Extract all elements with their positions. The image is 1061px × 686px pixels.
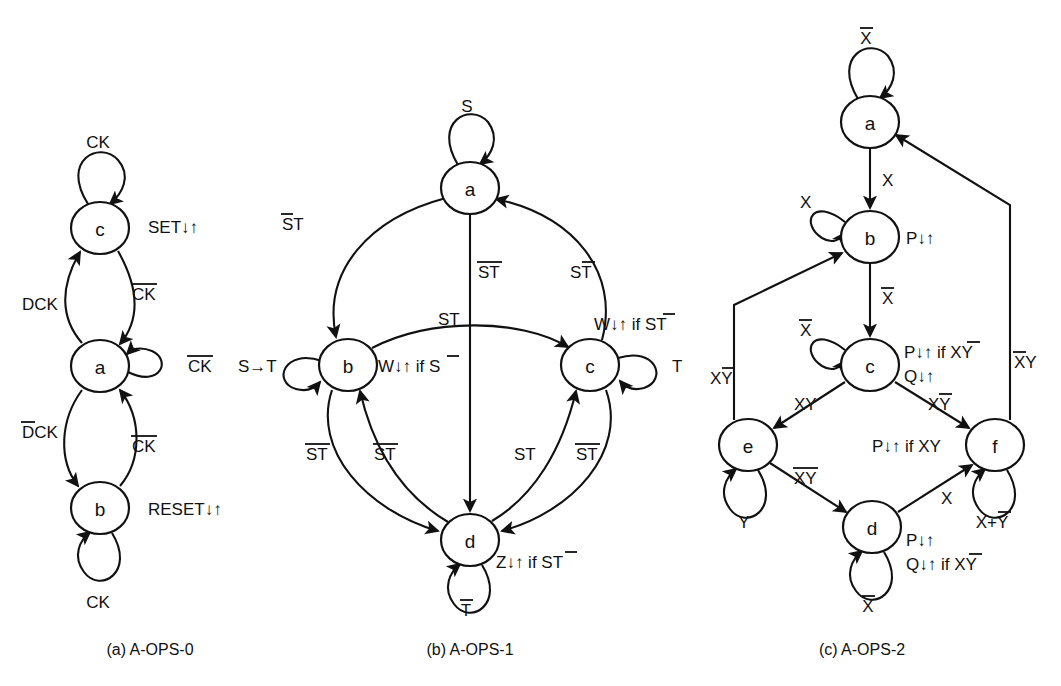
output-label-c-c2: Q↓↑ <box>904 367 934 386</box>
output-label-b-reset: RESET↓↑ <box>148 500 222 519</box>
label-c-f-to-a: XY <box>1013 352 1037 372</box>
label-b-d-to-b-text: ST <box>374 445 396 464</box>
state-label-b: b <box>95 499 106 520</box>
state-node-b-b[interactable]: b <box>319 339 377 391</box>
self-loop-c-ck <box>78 152 124 204</box>
state-label-c-c: c <box>865 356 875 377</box>
label-self-loop-c: CK <box>86 133 110 152</box>
output-label-b-c: W↓↑ if ST <box>594 314 675 334</box>
label-c-e-to-d: XY <box>793 468 818 488</box>
label-c-self-loop-b: X <box>800 193 811 212</box>
label-b-c-to-d-text: ST <box>576 445 598 464</box>
state-machine-figure: c a b CK CK CK CK DCK D <box>0 0 1061 686</box>
transition-a-to-b <box>64 390 82 486</box>
label-c-self-loop-c: X <box>799 320 812 340</box>
state-node-c-a[interactable]: a <box>841 96 899 148</box>
state-label-b-b: b <box>343 356 354 377</box>
label-b-c-to-a-text: ST <box>570 263 592 282</box>
state-node-c-e[interactable]: e <box>719 419 777 471</box>
output-label-b-b-text: W↓↑ if S <box>378 357 440 376</box>
label-b-a-to-b-text: ST <box>282 215 304 234</box>
state-label-b-d: d <box>465 531 476 552</box>
label-transition-c-to-a-text: CK <box>132 285 156 304</box>
diagram-b-ops-1: a b c d S S→T T T ST <box>238 97 682 620</box>
state-label-c: c <box>95 219 105 240</box>
label-transition-c-to-a: CK <box>131 284 157 304</box>
label-c-a-to-b: X <box>882 171 893 190</box>
label-c-self-loop-f: X+Y <box>976 512 1011 532</box>
self-loop-c-e-y <box>724 469 766 518</box>
caption-a-ops-0: (a) A-OPS-0 <box>106 641 193 658</box>
state-label-c-a: a <box>865 113 876 134</box>
label-c-e-to-d-text: XY <box>794 469 817 488</box>
label-transition-a-to-c: DCK <box>22 295 59 314</box>
label-c-self-loop-e: Y <box>738 513 749 532</box>
diagram-a-ops-0: c a b CK CK CK CK DCK D <box>21 133 222 612</box>
label-c-self-loop-d: X <box>862 596 875 616</box>
state-node-c-f[interactable]: f <box>966 419 1024 471</box>
state-node-c-d[interactable]: d <box>843 501 901 553</box>
label-c-c-to-f-text: XY <box>928 395 951 414</box>
label-b-self-loop-d: T <box>460 600 473 620</box>
self-loop-c-c-xbar <box>811 339 845 369</box>
label-self-loop-a-text: CK <box>188 357 212 376</box>
label-c-self-loop-c-text: X <box>800 321 811 340</box>
output-label-c-b: P↓↑ <box>906 229 934 248</box>
output-label-b-c-text: W↓↑ if ST <box>594 315 667 334</box>
state-label-c-b: b <box>865 228 876 249</box>
self-loop-a-ckbar <box>127 349 162 377</box>
label-c-c-to-f: XY <box>928 394 952 414</box>
state-node-a[interactable]: a <box>71 340 129 392</box>
diagram-c-ops-2: a b c e f d X <box>710 28 1037 616</box>
label-c-self-loop-a: X <box>860 28 873 48</box>
label-b-a-to-d: ST <box>477 262 502 282</box>
label-b-d-to-b: ST <box>373 444 398 464</box>
figure-canvas: c a b CK CK CK CK DCK D <box>0 0 1061 686</box>
label-b-c-to-d: ST <box>575 444 600 464</box>
self-loop-b-c-t <box>618 355 656 389</box>
self-loop-c-f-xory <box>973 469 1015 518</box>
label-transition-a-to-b: DCK <box>21 422 59 442</box>
output-label-c-f: P↓↑ if XY <box>872 437 941 456</box>
label-b-b-to-d: ST <box>305 444 330 464</box>
label-b-self-loop-d-text: T <box>461 601 471 620</box>
state-label-c-d: d <box>867 518 878 539</box>
output-label-c-d2-text: Q↓↑ if XY <box>906 555 977 574</box>
label-b-self-loop-b: S→T <box>238 357 277 376</box>
label-b-b-to-c: ST <box>438 310 460 329</box>
label-transition-a-to-b-text: DCK <box>22 423 59 442</box>
state-node-b-d[interactable]: d <box>441 514 499 566</box>
output-label-c-set: SET↓↑ <box>148 218 198 237</box>
label-b-d-to-c: ST <box>514 445 536 464</box>
label-transition-b-to-a: CK <box>131 436 157 456</box>
self-loop-b-ck <box>78 532 120 581</box>
state-label-c-e: e <box>743 436 754 457</box>
label-b-a-to-b: ST <box>281 214 304 234</box>
output-label-b-b: W↓↑ if S <box>378 356 459 376</box>
self-loop-b-a-s <box>449 114 494 165</box>
caption-c-ops-2: (c) A-OPS-2 <box>819 641 905 658</box>
label-transition-b-to-a-text: CK <box>132 437 156 456</box>
label-c-e-to-b-text: XY <box>710 369 733 388</box>
label-b-b-to-d-text: ST <box>306 445 328 464</box>
state-node-b[interactable]: b <box>71 482 129 534</box>
state-node-c-b[interactable]: b <box>841 211 899 263</box>
state-node-b-a[interactable]: a <box>441 162 499 214</box>
label-c-self-loop-f-text: X+Y <box>976 513 1009 532</box>
transition-c-d-to-f <box>898 465 972 512</box>
self-loop-b-b-st <box>284 358 322 390</box>
label-c-c-to-e: XY <box>794 395 817 414</box>
output-label-c-d2: Q↓↑ if XY <box>906 554 982 574</box>
state-node-b-c[interactable]: c <box>561 339 619 391</box>
label-b-a-to-d-text: ST <box>478 263 500 282</box>
caption-b-ops-1: (b) A-OPS-1 <box>426 641 513 658</box>
state-node-c[interactable]: c <box>71 202 129 254</box>
output-label-c-c1: P↓↑ if XY <box>904 342 980 362</box>
self-loop-c-b-x <box>811 211 845 241</box>
label-c-e-to-b: XY <box>710 368 735 388</box>
state-label-b-c: c <box>585 356 595 377</box>
self-loop-c-d-xbar <box>850 551 892 600</box>
transition-a-to-c <box>65 252 82 343</box>
self-loop-c-a-xbar <box>849 48 894 99</box>
state-node-c-c[interactable]: c <box>841 339 899 391</box>
